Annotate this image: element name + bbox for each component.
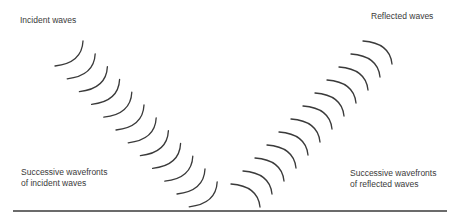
- incident-wavefront-arc: [116, 105, 144, 130]
- reflected-wavefront-arc: [243, 171, 272, 194]
- incident-wavefront-arc: [79, 67, 107, 92]
- reflected-wavefront-arc: [351, 54, 380, 77]
- reflected-wavefront-arc: [291, 119, 320, 142]
- label-incident-waves: Incident waves: [20, 15, 76, 26]
- incident-wavefront-arc: [92, 79, 120, 104]
- incident-wavefront-arc: [165, 156, 193, 181]
- label-incident-wavefronts-line2: of incident waves: [21, 178, 86, 189]
- label-reflected-wavefronts-line2: of reflected waves: [350, 179, 419, 190]
- reflected-wavefront-arc: [363, 41, 392, 64]
- label-incident-wavefronts-line1: Successive wavefronts: [21, 167, 107, 178]
- label-reflected-wavefronts-line1: Successive wavefronts: [350, 168, 436, 179]
- reflected-wavefront-arc: [255, 158, 284, 181]
- incident-wavefront-arc: [140, 131, 168, 156]
- incident-wavefront-arc: [153, 143, 181, 168]
- incident-wavefront-arc: [177, 169, 205, 194]
- reflected-wavefront-arc: [339, 67, 368, 90]
- incident-wavefront-arc: [55, 41, 83, 66]
- reflected-wavefront-arc: [303, 106, 332, 129]
- reflected-wavefront-arc: [267, 145, 296, 168]
- reflected-wavefront-arc: [327, 80, 356, 103]
- reflected-wavefront-arc: [231, 184, 260, 207]
- incident-wavefront-arc: [189, 182, 217, 207]
- reflected-wavefront-arc: [279, 132, 308, 155]
- label-reflected-waves: Reflected waves: [371, 11, 433, 22]
- reflected-wavefront-arc: [315, 93, 344, 116]
- incident-wavefront-arc: [128, 118, 156, 143]
- incident-wavefront-arc: [67, 54, 95, 79]
- incident-wavefront-arc: [104, 92, 132, 117]
